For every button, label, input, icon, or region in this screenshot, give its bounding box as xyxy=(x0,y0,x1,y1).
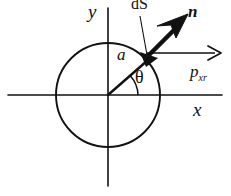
pressure-subscript: xr xyxy=(199,72,207,83)
normal-vector-label: n xyxy=(188,3,197,20)
pressure-symbol: p xyxy=(190,62,199,81)
surface-element-label: dS xyxy=(131,0,148,12)
radius-label: a xyxy=(117,46,126,63)
figure-drawing xyxy=(0,0,231,196)
surface-element-leader-line xyxy=(140,16,147,55)
x-axis-label: x xyxy=(193,100,201,119)
y-axis-label: y xyxy=(88,2,96,21)
pressure-label: pxr xyxy=(190,63,207,83)
figure-container: y x a θ n dS pxr xyxy=(0,0,231,196)
angle-label: θ xyxy=(135,68,144,86)
